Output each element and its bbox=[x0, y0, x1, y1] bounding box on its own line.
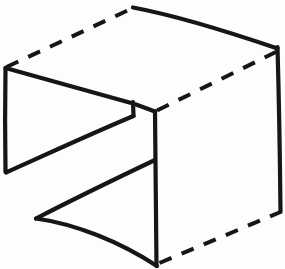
figure-canvas bbox=[0, 0, 285, 269]
center-vertical-edge bbox=[155, 111, 157, 266]
drawing-background bbox=[0, 0, 285, 269]
impossible-cube-drawing bbox=[0, 0, 285, 269]
upper-wedge-notch-edge bbox=[133, 102, 134, 116]
